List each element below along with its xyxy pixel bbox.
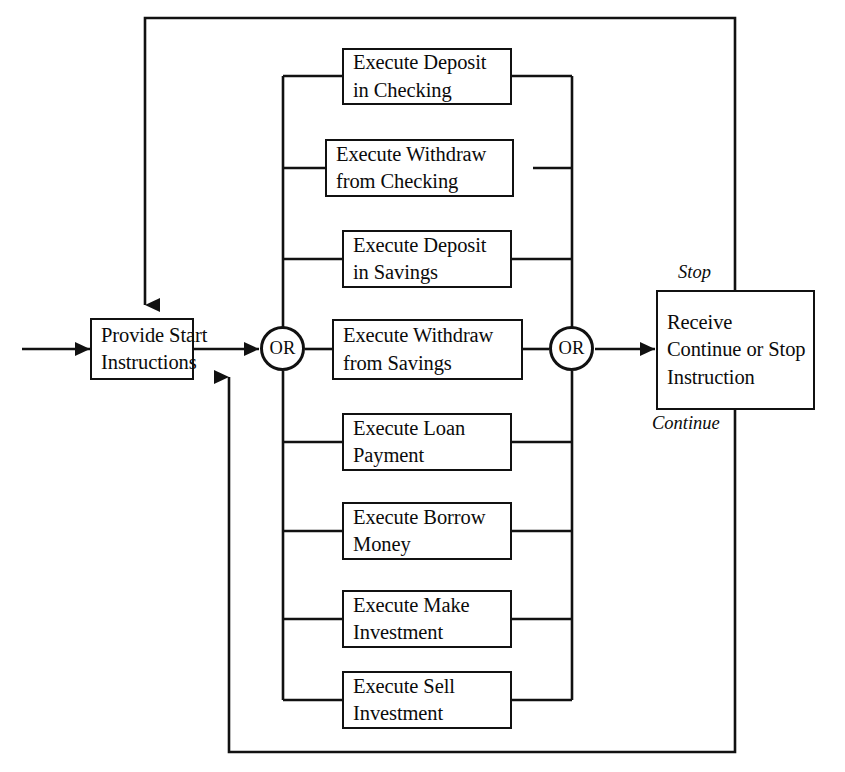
- proc-1-line2: from Checking: [336, 168, 512, 195]
- proc-5-line1: Execute Borrow: [353, 504, 510, 531]
- node-or-left[interactable]: OR: [260, 326, 305, 371]
- or-right-label: OR: [558, 338, 584, 359]
- or-left-label: OR: [269, 338, 295, 359]
- proc-7-line1: Execute Sell: [353, 673, 510, 700]
- start-label-line1: Provide Start: [101, 322, 192, 349]
- edge-label-stop: Stop: [678, 262, 711, 283]
- end-label-line2: Continue or Stop: [667, 336, 813, 363]
- proc-1-line1: Execute Withdraw: [336, 141, 512, 168]
- proc-6-line1: Execute Make: [353, 592, 510, 619]
- proc-3-line1: Execute Withdraw: [343, 322, 521, 349]
- proc-7-line2: Investment: [353, 700, 510, 727]
- node-execute-loan-payment[interactable]: Execute Loan Payment: [342, 413, 512, 471]
- proc-3-line2: from Savings: [343, 350, 521, 377]
- node-or-right[interactable]: OR: [549, 326, 594, 371]
- flowchart-diagram: Provide Start Instructions OR Execute De…: [0, 0, 845, 772]
- node-execute-make-investment[interactable]: Execute Make Investment: [342, 590, 512, 648]
- proc-0-line1: Execute Deposit: [353, 49, 510, 76]
- proc-5-line2: Money: [353, 531, 510, 558]
- proc-6-line2: Investment: [353, 619, 510, 646]
- proc-4-line1: Execute Loan: [353, 415, 510, 442]
- node-execute-deposit-in-savings[interactable]: Execute Deposit in Savings: [342, 230, 512, 288]
- node-receive-continue-or-stop-instruction[interactable]: Receive Continue or Stop Instruction: [656, 290, 815, 410]
- edge-label-continue: Continue: [652, 413, 720, 434]
- start-label-line2: Instructions: [101, 349, 192, 376]
- node-provide-start-instructions[interactable]: Provide Start Instructions: [90, 318, 194, 380]
- node-execute-borrow-money[interactable]: Execute Borrow Money: [342, 502, 512, 560]
- node-execute-deposit-in-checking[interactable]: Execute Deposit in Checking: [342, 48, 512, 105]
- proc-4-line2: Payment: [353, 442, 510, 469]
- proc-2-line2: in Savings: [353, 259, 510, 286]
- node-execute-sell-investment[interactable]: Execute Sell Investment: [342, 671, 512, 729]
- proc-0-line2: in Checking: [353, 77, 510, 104]
- node-execute-withdraw-from-checking[interactable]: Execute Withdraw from Checking: [325, 139, 514, 197]
- end-label-line3: Instruction: [667, 364, 813, 391]
- node-execute-withdraw-from-savings[interactable]: Execute Withdraw from Savings: [332, 319, 523, 380]
- end-label-line1: Receive: [667, 309, 813, 336]
- proc-2-line1: Execute Deposit: [353, 232, 510, 259]
